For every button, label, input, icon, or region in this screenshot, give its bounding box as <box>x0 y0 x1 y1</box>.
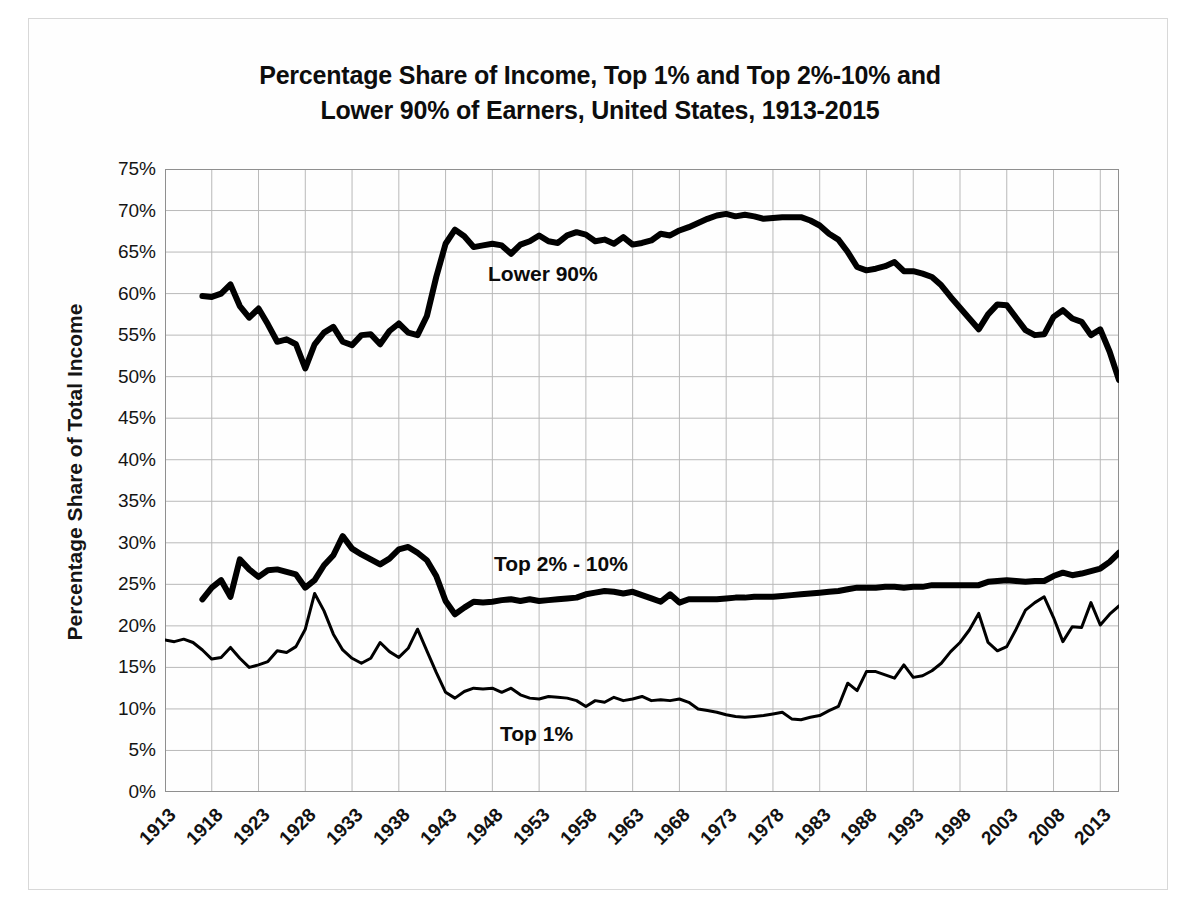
x-tick-label: 1993 <box>835 804 928 897</box>
x-tick-label: 1938 <box>321 804 414 897</box>
x-tick-label: 1988 <box>789 804 882 897</box>
y-tick-label: 55% <box>84 324 156 346</box>
x-tick-label: 1983 <box>742 804 835 897</box>
x-tick-label: 1968 <box>602 804 695 897</box>
x-tick-label: 1958 <box>508 804 601 897</box>
x-tick-label: 1963 <box>555 804 648 897</box>
x-tick-label: 2003 <box>929 804 1022 897</box>
y-tick-label: 75% <box>84 158 156 180</box>
x-tick-label: 1933 <box>274 804 367 897</box>
chart-figure: Percentage Share of Income, Top 1% and T… <box>0 0 1197 923</box>
y-tick-label: 20% <box>84 615 156 637</box>
series-annotation-lower-90: Lower 90% <box>488 262 598 286</box>
y-axis-tick-labels: 75%70%65%60%55%50%45%40%35%30%25%20%15%1… <box>78 156 156 806</box>
y-tick-label: 35% <box>84 490 156 512</box>
x-tick-label: 1943 <box>368 804 461 897</box>
plot-area <box>165 169 1119 792</box>
y-tick-label: 70% <box>84 200 156 222</box>
series-line-lower-90 <box>202 214 1119 380</box>
x-tick-label: 1978 <box>695 804 788 897</box>
x-tick-label: 2008 <box>976 804 1069 897</box>
x-tick-label: 2013 <box>1022 804 1115 897</box>
chart-canvas <box>165 169 1119 792</box>
series-line-top-1 <box>165 593 1119 719</box>
y-tick-label: 50% <box>84 366 156 388</box>
y-tick-label: 60% <box>84 283 156 305</box>
y-tick-label: 45% <box>84 407 156 429</box>
x-tick-label: 1913 <box>87 804 180 897</box>
x-tick-label: 1998 <box>882 804 975 897</box>
x-tick-label: 1973 <box>648 804 741 897</box>
x-tick-label: 1953 <box>461 804 554 897</box>
x-tick-label: 1948 <box>415 804 508 897</box>
plot-border <box>166 170 1119 792</box>
x-tick-label: 1928 <box>227 804 320 897</box>
chart-title: Percentage Share of Income, Top 1% and T… <box>120 58 1080 128</box>
x-tick-label: 1923 <box>181 804 274 897</box>
chart-title-line-2: Lower 90% of Earners, United States, 191… <box>120 93 1080 128</box>
series-annotation-top-1: Top 1% <box>500 722 573 746</box>
y-tick-label: 0% <box>84 781 156 803</box>
plot-frame <box>166 170 1119 792</box>
y-tick-label: 30% <box>84 532 156 554</box>
series-line-top-2-10 <box>202 536 1119 614</box>
series-lines <box>165 214 1119 720</box>
chart-title-line-1: Percentage Share of Income, Top 1% and T… <box>120 58 1080 93</box>
y-tick-label: 65% <box>84 241 156 263</box>
y-tick-label: 10% <box>84 698 156 720</box>
x-tick-label: 1918 <box>134 804 227 897</box>
y-tick-label: 15% <box>84 656 156 678</box>
y-tick-label: 40% <box>84 449 156 471</box>
y-tick-label: 25% <box>84 573 156 595</box>
gridlines <box>165 169 1119 792</box>
y-tick-label: 5% <box>84 739 156 761</box>
series-annotation-top-2-10: Top 2% - 10% <box>494 552 628 576</box>
